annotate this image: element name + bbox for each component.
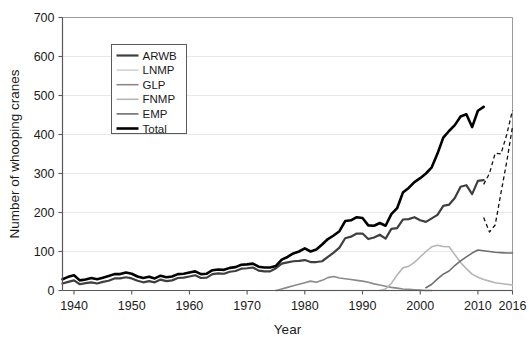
whooping-crane-population-chart: 0100200300400500600700 19401950196019701… [0,0,529,337]
legend-label-arwb: ARWB [143,50,178,62]
x-tick-label-1970: 1970 [233,299,261,313]
legend-label-lnmp: LNMP [143,64,175,76]
y-tick-label-0: 0 [48,284,55,298]
x-tick-label-1990: 1990 [349,299,377,313]
y-tick-label-300: 300 [34,167,55,181]
y-tick-label-700: 700 [34,11,55,25]
y-axis-title-text: Number of whooping cranes [7,69,22,238]
x-tick-label-2010: 2010 [464,299,492,313]
legend-label-fnmp: FNMP [143,93,176,105]
chart-canvas: 0100200300400500600700 19401950196019701… [0,0,529,337]
x-tick-label-2000: 2000 [406,299,434,313]
chart-background [0,0,529,337]
x-axis-title: Year [274,322,302,337]
y-tick-label-500: 500 [34,89,55,103]
x-tick-label-2016: 2016 [499,299,527,313]
legend-label-emp: EMP [143,108,168,120]
x-tick-label-1950: 1950 [118,299,146,313]
y-tick-label-400: 400 [34,128,55,142]
y-tick-label-600: 600 [34,50,55,64]
y-tick-label-200: 200 [34,206,55,220]
legend-label-glp: GLP [143,79,166,91]
x-tick-label-1960: 1960 [176,299,204,313]
x-axis-title-text: Year [274,322,302,337]
chart-legend: ARWBLNMPGLPFNMPEMPTotal [112,45,187,135]
x-tick-label-1940: 1940 [60,299,88,313]
y-tick-label-100: 100 [34,245,55,259]
y-axis-title: Number of whooping cranes [7,69,22,238]
x-tick-label-1980: 1980 [291,299,319,313]
legend-label-total: Total [143,123,167,135]
